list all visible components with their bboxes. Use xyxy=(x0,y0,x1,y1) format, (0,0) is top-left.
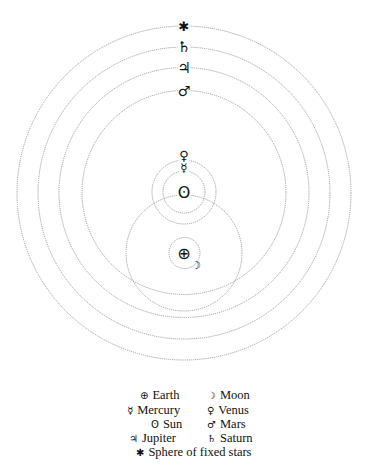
tychonic-system-diagram: ✱♄♃♂♀☿ʘ⊕☽ xyxy=(0,0,367,385)
earth-icon: ⊕ xyxy=(177,244,190,263)
legend-label: Sphere of fixed stars xyxy=(148,445,251,459)
moon-icon: ☽ xyxy=(191,259,201,272)
sun-icon: ʘ xyxy=(151,419,159,430)
earth-icon: ⊕ xyxy=(140,390,148,401)
legend-item-jupiter: ♃Jupiter xyxy=(129,431,176,446)
legend-item-earth: ⊕Earth xyxy=(140,388,179,403)
legend-item-mars: ♂Mars xyxy=(207,417,246,432)
fixed-stars-icon: ✱ xyxy=(179,19,190,34)
legend-item-saturn: ♄Saturn xyxy=(207,431,253,446)
legend-label: Saturn xyxy=(220,431,253,445)
legend-label: Mercury xyxy=(137,403,180,417)
mars-icon: ♂ xyxy=(178,83,191,99)
legend-item-sun: ʘSun xyxy=(151,417,182,432)
mercury-icon: ☿ xyxy=(180,161,187,175)
celestial-bodies: ✱♄♃♂♀☿ʘ⊕☽ xyxy=(177,19,201,272)
legend-item-fixed-stars: ✱Sphere of fixed stars xyxy=(136,445,252,460)
legend-item-moon: ☽Moon xyxy=(207,388,250,403)
legend-label: Jupiter xyxy=(142,431,176,445)
legend-item-venus: ♀Venus xyxy=(207,403,249,418)
venus-icon: ♀ xyxy=(207,405,214,416)
mars-icon: ♂ xyxy=(207,419,216,430)
star-icon: ✱ xyxy=(136,447,144,458)
legend-label: Venus xyxy=(218,403,249,417)
sun-icon: ʘ xyxy=(178,183,191,202)
legend-label: Mars xyxy=(220,417,246,431)
legend-label: Moon xyxy=(220,388,250,402)
jupiter-icon: ♃ xyxy=(177,59,190,77)
legend-label: Sun xyxy=(163,417,182,431)
jupiter-icon: ♃ xyxy=(129,433,138,444)
moon-icon: ☽ xyxy=(207,390,216,401)
saturn-icon: ♄ xyxy=(177,38,190,56)
saturn-icon: ♄ xyxy=(207,433,216,444)
legend-item-mercury: ☿Mercury xyxy=(127,403,180,418)
mercury-icon: ☿ xyxy=(127,405,133,416)
legend-label: Earth xyxy=(152,388,179,402)
